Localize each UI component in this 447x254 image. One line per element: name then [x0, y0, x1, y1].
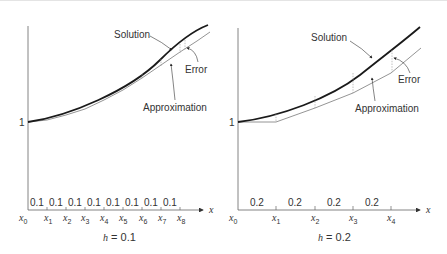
- x-tick-labels: x0 x1 x2 x3 x4: [228, 212, 395, 225]
- panel-right: x 1 Solution Error Approximation 0.2 0.2: [228, 27, 431, 243]
- figure-canvas: x 1 Solution Error Approximation: [0, 0, 447, 254]
- x-axis-label: x: [208, 204, 214, 215]
- svg-text:x1: x1: [271, 212, 280, 225]
- svg-text:0.1: 0.1: [87, 197, 101, 208]
- solution-label: Solution: [114, 29, 150, 40]
- error-label: Error: [185, 64, 208, 75]
- svg-text:x0: x0: [228, 212, 237, 225]
- svg-text:x8: x8: [176, 212, 185, 225]
- svg-text:x5: x5: [118, 212, 127, 225]
- svg-text:x6: x6: [138, 212, 147, 225]
- error-label: Error: [398, 74, 421, 85]
- svg-text:0.1: 0.1: [144, 197, 158, 208]
- panel-left: x 1 Solution Error Approximation: [18, 25, 214, 243]
- step-labels: 0.1 0.1 0.1 0.1 0.1 0.1 0.1 0.1: [30, 197, 177, 208]
- svg-text:x7: x7: [157, 212, 166, 225]
- svg-text:0.2: 0.2: [250, 197, 264, 208]
- solution-pointer: [150, 36, 172, 50]
- x-axis-label: x: [425, 204, 431, 215]
- svg-text:0.2: 0.2: [327, 197, 341, 208]
- y-value-label: 1: [19, 117, 25, 128]
- caption-left: h = 0.1: [103, 231, 136, 243]
- svg-text:0.1: 0.1: [68, 197, 82, 208]
- y-value-label: 1: [229, 117, 235, 128]
- approximation-label: Approximation: [355, 103, 419, 114]
- svg-text:x3: x3: [348, 212, 357, 225]
- solution-pointer: [350, 41, 372, 58]
- caption-right: h = 0.2: [318, 231, 351, 243]
- svg-text:x2: x2: [310, 212, 319, 225]
- error-pointer: [394, 58, 410, 73]
- svg-text:0.2: 0.2: [365, 197, 379, 208]
- svg-text:x3: x3: [80, 212, 89, 225]
- svg-text:0.1: 0.1: [49, 197, 63, 208]
- svg-text:0.1: 0.1: [163, 197, 177, 208]
- solution-label: Solution: [311, 32, 347, 43]
- svg-text:0.2: 0.2: [288, 197, 302, 208]
- svg-text:x4: x4: [99, 212, 108, 225]
- svg-text:0.1: 0.1: [125, 197, 139, 208]
- svg-text:0.1: 0.1: [106, 197, 120, 208]
- svg-text:x1: x1: [43, 212, 52, 225]
- approximation-pointer: [171, 64, 175, 100]
- svg-text:x4: x4: [386, 212, 395, 225]
- svg-text:0.1: 0.1: [30, 197, 44, 208]
- svg-text:x2: x2: [62, 212, 71, 225]
- error-pointer: [187, 48, 198, 62]
- svg-text:x0: x0: [18, 212, 27, 225]
- approximation-label: Approximation: [143, 102, 207, 113]
- x-tick-labels: x0 x1 x2 x3 x4 x5 x6 x7 x8: [18, 212, 185, 225]
